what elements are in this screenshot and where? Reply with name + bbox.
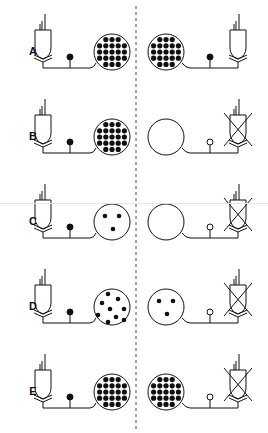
cell-dot bbox=[170, 389, 175, 394]
cell-dot bbox=[116, 297, 121, 302]
cell-dot bbox=[170, 377, 175, 382]
cell-dot bbox=[122, 389, 127, 394]
cell-dot bbox=[116, 134, 121, 139]
cell-dot bbox=[97, 389, 102, 394]
synapse-terminal bbox=[207, 224, 213, 230]
cell-dot bbox=[157, 377, 162, 382]
synapse-terminal bbox=[67, 54, 73, 60]
cell-dot bbox=[171, 299, 176, 304]
cell-dot bbox=[170, 37, 175, 42]
cell-dot bbox=[109, 147, 114, 152]
cell-dot bbox=[163, 56, 168, 61]
cell-dot bbox=[122, 318, 127, 323]
left-circuit-row-e bbox=[34, 354, 130, 410]
cell-body bbox=[148, 289, 184, 325]
cell-body bbox=[148, 119, 184, 155]
cell-dot bbox=[116, 62, 121, 67]
cell-dot bbox=[100, 301, 105, 306]
cell-dot bbox=[117, 214, 122, 219]
cell-dot bbox=[103, 214, 108, 219]
cell-dot bbox=[122, 134, 127, 139]
cell-dot bbox=[163, 377, 168, 382]
cell-dot bbox=[109, 49, 114, 54]
cell-dot bbox=[108, 307, 113, 312]
cell-dot bbox=[170, 402, 175, 407]
cell-dot bbox=[170, 62, 175, 67]
cell-dot bbox=[122, 49, 127, 54]
cell-dot bbox=[103, 141, 108, 146]
synapse-terminal bbox=[67, 224, 73, 230]
synapse-terminal bbox=[207, 54, 213, 60]
cell-dot bbox=[157, 37, 162, 42]
cell-dot bbox=[116, 122, 121, 127]
cell-dot bbox=[97, 128, 102, 133]
right-circuit-row-b bbox=[148, 99, 252, 155]
cell-dot bbox=[176, 56, 181, 61]
cell-dot bbox=[116, 396, 121, 401]
cell-dot bbox=[157, 49, 162, 54]
cell-dot bbox=[97, 43, 102, 48]
cell-dot bbox=[109, 62, 114, 67]
cell-dot bbox=[122, 307, 127, 312]
cell-dot bbox=[176, 49, 181, 54]
cell-dot bbox=[122, 141, 127, 146]
cell-dot bbox=[176, 383, 181, 388]
left-circuit-row-d bbox=[34, 269, 130, 325]
row-label-e: E bbox=[26, 385, 40, 397]
cell-dot bbox=[116, 56, 121, 61]
right-circuit-row-e bbox=[148, 354, 252, 410]
cell-dot bbox=[116, 377, 121, 382]
cell-dot bbox=[157, 43, 162, 48]
cell-dot bbox=[109, 402, 114, 407]
cell-dot bbox=[163, 37, 168, 42]
cell-dot bbox=[116, 147, 121, 152]
cell-dot bbox=[109, 128, 114, 133]
cell-dot bbox=[109, 43, 114, 48]
cell-dot bbox=[106, 292, 111, 297]
cell-dot bbox=[163, 62, 168, 67]
cell-dot bbox=[157, 56, 162, 61]
cell-dot bbox=[176, 43, 181, 48]
cell-dot bbox=[109, 141, 114, 146]
cell-dot bbox=[109, 396, 114, 401]
left-circuit-row-c bbox=[34, 184, 130, 240]
cell-dot bbox=[163, 396, 168, 401]
right-circuit-row-c bbox=[148, 184, 252, 240]
cell-dot bbox=[170, 43, 175, 48]
cell-dot bbox=[122, 43, 127, 48]
row-label-d: D bbox=[26, 300, 40, 312]
cell-dot bbox=[97, 141, 102, 146]
cell-dot bbox=[151, 43, 156, 48]
cell-dot bbox=[170, 56, 175, 61]
cell-dot bbox=[163, 49, 168, 54]
cell-dot bbox=[116, 141, 121, 146]
left-circuit-row-b bbox=[34, 99, 130, 155]
cell-dot bbox=[114, 315, 119, 320]
synapse-terminal bbox=[207, 139, 213, 145]
cell-dot bbox=[111, 227, 116, 232]
cell-body bbox=[94, 204, 130, 240]
cell-dot bbox=[122, 128, 127, 133]
cell-dot bbox=[170, 396, 175, 401]
row-label-a: A bbox=[26, 45, 40, 57]
cell-dot bbox=[157, 396, 162, 401]
cell-dot bbox=[103, 56, 108, 61]
cell-dot bbox=[176, 396, 181, 401]
cell-dot bbox=[103, 402, 108, 407]
cell-dot bbox=[109, 383, 114, 388]
synapse-terminal bbox=[207, 394, 213, 400]
cell-dot bbox=[96, 313, 101, 318]
cell-dot bbox=[122, 396, 127, 401]
cell-dot bbox=[97, 383, 102, 388]
cell-dot bbox=[109, 389, 114, 394]
cell-dot bbox=[116, 383, 121, 388]
cell-dot bbox=[103, 377, 108, 382]
cell-dot bbox=[157, 402, 162, 407]
cell-dot bbox=[157, 389, 162, 394]
cell-dot bbox=[170, 49, 175, 54]
synapse-terminal bbox=[67, 139, 73, 145]
receptor-bulb bbox=[230, 30, 246, 59]
cell-dot bbox=[165, 312, 170, 317]
cell-dot bbox=[151, 383, 156, 388]
cell-dot bbox=[151, 56, 156, 61]
